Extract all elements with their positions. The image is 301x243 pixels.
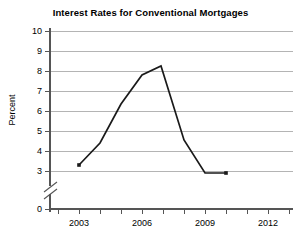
data-point-marker-start	[77, 163, 81, 167]
y-tick-label-6: 6	[20, 106, 42, 116]
y-tick-label-9: 9	[20, 46, 42, 56]
chart-screenshot: Interest Rates for Conventional Mortgage…	[0, 0, 301, 243]
y-tick-label-4: 4	[20, 146, 42, 156]
y-tick-label-5: 5	[20, 126, 42, 136]
y-tick-label-3: 3	[20, 166, 42, 176]
y-tick-label-10: 10	[20, 26, 42, 36]
x-tick-label-2012: 2012	[248, 218, 288, 228]
data-series-line	[79, 66, 226, 173]
y-tick-label-8: 8	[20, 66, 42, 76]
x-tick-label-2006: 2006	[122, 218, 162, 228]
grid-lines	[50, 31, 293, 209]
y-tick-label-0: 0	[20, 204, 42, 214]
y-tick-label-7: 7	[20, 86, 42, 96]
x-tick-marks	[58, 209, 289, 214]
data-point-marker-end	[224, 171, 228, 175]
line-chart-plot	[0, 0, 301, 243]
x-tick-label-2003: 2003	[59, 218, 99, 228]
x-tick-label-2009: 2009	[185, 218, 225, 228]
y-tick-marks	[45, 31, 50, 209]
